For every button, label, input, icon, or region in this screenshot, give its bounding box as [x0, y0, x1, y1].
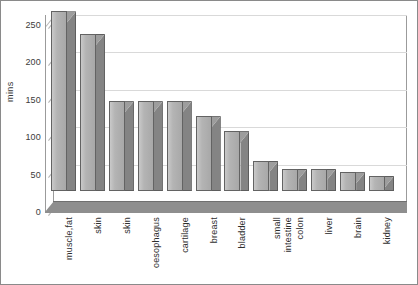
bar-series — [45, 15, 407, 213]
x-axis-category-label: skin — [93, 217, 105, 281]
x-axis-category-label: oesophagus — [151, 217, 163, 281]
x-axis-category-label-line: brain — [353, 217, 364, 281]
plot-area — [45, 15, 407, 213]
bar-front-face — [340, 172, 356, 191]
x-axis-category-label-line: skin — [122, 217, 133, 281]
x-axis-category-label: smallintestine — [272, 217, 296, 281]
bar-side-face — [154, 101, 163, 191]
x-axis-category-label: cartilage — [180, 217, 192, 281]
bar[interactable] — [80, 34, 105, 202]
y-axis-tick-labels: 050100150200250 — [13, 1, 41, 285]
bar[interactable] — [51, 11, 76, 202]
bar-side-face — [212, 116, 221, 191]
bar[interactable] — [369, 176, 394, 202]
bar-side-face — [67, 11, 76, 191]
x-axis-category-label: breast — [209, 217, 221, 281]
bar-side-face — [96, 34, 105, 191]
bar[interactable] — [224, 131, 249, 202]
bar[interactable] — [340, 172, 365, 202]
bar-side-face — [125, 101, 134, 191]
x-axis-category-label-line: small — [272, 217, 283, 281]
y-axis-tick-label: 0 — [17, 207, 41, 217]
x-axis-category-label: liver — [324, 217, 336, 281]
x-axis-category-label-line: intestine — [283, 217, 294, 281]
bar[interactable] — [167, 101, 192, 202]
y-axis-tick-label: 50 — [17, 170, 41, 180]
bar-front-face — [80, 34, 96, 191]
x-axis-category-label-line: kidney — [382, 217, 393, 281]
bar-front-face — [253, 161, 269, 191]
bar[interactable] — [282, 169, 307, 202]
x-axis-category-label: skin — [122, 217, 134, 281]
bar[interactable] — [138, 101, 163, 202]
x-axis-category-label-line: breast — [209, 217, 220, 281]
bar-front-face — [282, 169, 298, 191]
x-axis-category-label: muscle,fat — [64, 217, 76, 281]
x-axis-category-label-line: oesophagus — [151, 217, 162, 281]
y-axis-tick-label: 100 — [17, 132, 41, 142]
bar[interactable] — [253, 161, 278, 202]
bar-front-face — [311, 169, 327, 191]
bar-side-face — [183, 101, 192, 191]
bar-front-face — [167, 101, 183, 191]
bar-front-face — [51, 11, 67, 191]
chart-figure: mins 050100150200250 muscle,fatskinskino… — [0, 0, 418, 285]
x-axis-category-label-line: liver — [324, 217, 335, 281]
x-axis-category-label-line: skin — [93, 217, 104, 281]
x-axis-category-label-line: bladder — [237, 217, 248, 281]
x-axis-category-label-line: muscle,fat — [64, 217, 75, 281]
x-axis-category-labels: muscle,fatskinskinoesophaguscartilagebre… — [45, 217, 407, 285]
x-axis-category-label: bladder — [237, 217, 249, 281]
bar[interactable] — [311, 169, 336, 202]
y-axis-tick-label: 150 — [17, 95, 41, 105]
bar-front-face — [196, 116, 212, 191]
bar-front-face — [369, 176, 385, 191]
x-axis-category-label-line: colon — [295, 217, 306, 281]
x-axis-category-label: brain — [353, 217, 365, 281]
bar[interactable] — [109, 101, 134, 202]
x-axis-category-label-line: cartilage — [180, 217, 191, 281]
x-axis-category-label: colon — [295, 217, 307, 281]
y-axis-tick-label: 250 — [17, 20, 41, 30]
y-axis-tick-label: 200 — [17, 57, 41, 67]
bar-front-face — [138, 101, 154, 191]
x-axis-category-label: kidney — [382, 217, 394, 281]
bar-front-face — [224, 131, 240, 191]
bar[interactable] — [196, 116, 221, 202]
bar-front-face — [109, 101, 125, 191]
